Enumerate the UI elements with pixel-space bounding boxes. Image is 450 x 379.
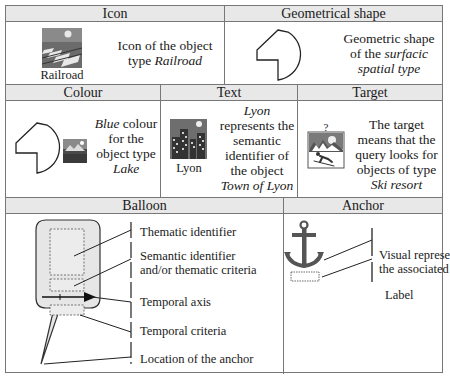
target-description: The target means that the query looks fo… — [351, 117, 442, 192]
text-desc-line: Town of Lyon — [216, 178, 298, 193]
header-text-label: Text — [217, 85, 242, 100]
label-semantic-identifier: Semantic identifier — [140, 249, 235, 263]
target-desc-line: The target — [351, 117, 442, 132]
divider — [224, 6, 225, 84]
header-colour: Colour — [6, 85, 161, 101]
colour-description: Blue colour for the object type Lake — [92, 116, 160, 176]
ski-resort-icon — [308, 132, 344, 168]
colour-desc-line: Blue colour — [92, 116, 160, 131]
shape-desc-line: of the surfacic — [336, 46, 442, 61]
header-colour-label: Colour — [64, 85, 103, 100]
icon-desc-line: Icon of the object — [106, 38, 224, 53]
divider — [160, 85, 161, 197]
geometrical-shape-description: Geometric shape of the surfacic spatial … — [336, 31, 442, 76]
text-description: Lyon represents the semantic identifier … — [216, 103, 298, 193]
text-desc-line: identifier of — [216, 148, 298, 163]
railroad-icon-caption: Railroad — [32, 68, 92, 83]
header-geometrical-shape: Geometrical shape — [225, 6, 442, 22]
colour-desc-line: Lake — [92, 161, 160, 176]
header-icon-label: Icon — [103, 6, 128, 21]
icon-description: Icon of the object type Railroad — [106, 38, 224, 68]
target-desc-line: query looks for — [351, 147, 442, 162]
shape-desc-line: spatial type — [336, 61, 442, 76]
colour-desc-line: object type — [92, 146, 160, 161]
town-icon-caption: Lyon — [161, 161, 217, 176]
text-desc-line: represents the — [216, 118, 298, 133]
railroad-icon — [42, 28, 82, 68]
label-anchor-location: Location of the anchor — [140, 352, 254, 366]
header-balloon-label: Balloon — [122, 198, 166, 213]
text-desc-line: semantic — [216, 133, 298, 148]
header-geometrical-shape-label: Geometrical shape — [281, 6, 386, 21]
label-associated: the associated — [379, 262, 449, 276]
label-thematic-criteria: and/or thematic criteria — [140, 263, 257, 277]
header-anchor-label: Anchor — [342, 198, 384, 213]
header-text: Text — [161, 85, 298, 101]
label-visual-representation: Visual represe — [379, 248, 450, 262]
target-desc-line: means that the — [351, 132, 442, 147]
text-desc-line: the object — [216, 163, 298, 178]
label-label: Label — [385, 288, 413, 302]
header-target: Target — [298, 85, 442, 101]
label-temporal-criteria: Temporal criteria — [140, 324, 226, 338]
surfacic-shape-icon — [254, 28, 310, 82]
anchor-diagram — [284, 214, 442, 374]
text-desc-line: Lyon — [216, 103, 298, 118]
label-thematic-identifier: Thematic identifier — [140, 225, 236, 239]
header-target-label: Target — [352, 85, 387, 100]
header-balloon: Balloon — [6, 198, 284, 214]
icon-desc-line: type Railroad — [106, 53, 224, 68]
lake-icon — [63, 139, 87, 163]
legend-table: Icon Geometrical shape Railroad Icon of … — [5, 5, 443, 373]
shape-desc-line: Geometric shape — [336, 31, 442, 46]
header-anchor: Anchor — [284, 198, 442, 214]
target-desc-line: objects of type — [351, 162, 442, 177]
target-desc-line: Ski resort — [351, 177, 442, 192]
town-icon — [170, 119, 207, 159]
colour-desc-line: for the — [92, 131, 160, 146]
label-temporal-axis: Temporal axis — [140, 295, 211, 309]
header-icon: Icon — [6, 6, 225, 22]
lake-shape-icon — [13, 121, 69, 175]
